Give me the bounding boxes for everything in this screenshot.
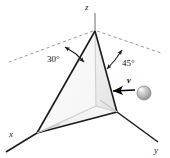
axis-z-label: z [84,2,89,12]
angle-left-leader-upper [65,47,76,54]
diagram-canvas: z x [0,0,170,158]
physics-diagram-figure: z x [0,0,170,158]
axis-y-label: y [153,145,158,155]
angle-right-leader-upper [115,50,122,60]
angle-right-label: 45° [122,58,135,68]
axis-x-label: x [8,129,13,139]
axis-y-line [117,112,158,142]
angle-annotation-right: 45° [107,50,135,69]
ball-highlight [139,88,144,92]
angle-left-label: 30° [47,54,60,64]
velocity-vector: v [113,75,135,91]
ball [137,86,151,100]
dashed-line-right [97,31,161,53]
velocity-label: v [127,75,131,85]
velocity-arrow [113,90,135,91]
pyramid-body [37,31,117,133]
angle-right-leader-lower [107,60,115,69]
ball-sphere [137,86,151,100]
